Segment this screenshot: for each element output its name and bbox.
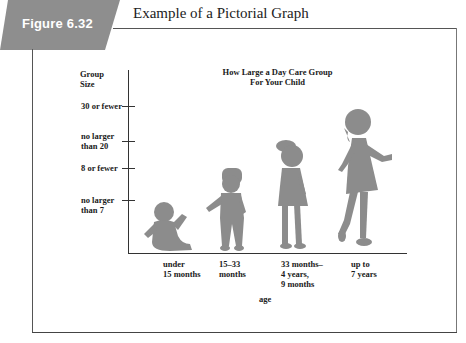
y-axis — [128, 70, 129, 254]
school-age-girl-silhouette — [336, 108, 396, 252]
frame-right-border — [456, 28, 457, 333]
y-tick — [122, 141, 135, 142]
y-tick — [122, 200, 135, 201]
y-tick-label: 8 or fewer — [81, 163, 118, 173]
preschooler-silhouette — [272, 140, 312, 252]
frame-bottom-border — [32, 332, 457, 333]
y-tick-label: no larger than 7 — [81, 195, 114, 215]
y-tick — [122, 106, 135, 107]
y-axis-label: Group Size — [80, 69, 104, 89]
y-tick-label: no larger than 20 — [81, 131, 114, 151]
figure-label: Figure 6.32 — [22, 16, 93, 31]
seated-baby-silhouette — [142, 200, 198, 252]
figure-caption: Example of a Pictorial Graph — [133, 5, 309, 22]
title-rule — [113, 28, 457, 29]
y-tick — [122, 168, 135, 169]
x-category-label: under 15 months — [163, 259, 201, 279]
y-tick-label: 30 or fewer — [81, 101, 122, 111]
toddler-silhouette — [204, 168, 250, 253]
x-axis-label: age — [259, 294, 271, 304]
x-category-label: 15–33 months — [219, 259, 246, 279]
chart-title: How Large a Day Care Group For Your Chil… — [210, 67, 345, 87]
x-category-label: up to 7 years — [351, 259, 377, 279]
x-category-label: 33 months– 4 years, 9 months — [281, 259, 323, 289]
x-axis — [128, 253, 407, 254]
frame-left-border — [32, 49, 33, 333]
